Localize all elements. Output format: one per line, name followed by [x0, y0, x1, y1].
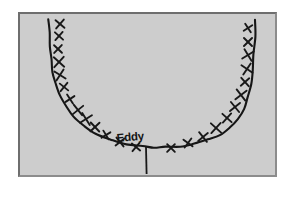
eddy-annotation: Eddy [116, 130, 146, 174]
data-point-x [54, 45, 62, 53]
eddy-label: Eddy [116, 130, 145, 144]
x-stroke-b [242, 49, 253, 60]
data-point-x [230, 102, 240, 112]
data-point-x [132, 143, 140, 151]
eddy-diagram-svg: Eddy [20, 14, 275, 175]
data-point-x [241, 63, 252, 74]
data-point-x [56, 20, 65, 29]
data-point-x [66, 95, 75, 104]
eddy-tick-line [146, 147, 147, 174]
data-point-x [242, 49, 253, 60]
data-point-x [167, 144, 175, 152]
data-point-x [211, 123, 221, 133]
data-point-x [244, 38, 252, 46]
curve-stroke [48, 19, 255, 147]
data-point-x [91, 123, 100, 132]
x-stroke-b [241, 63, 252, 74]
data-point-x [60, 83, 68, 91]
x-stroke-b [54, 69, 65, 80]
data-point-x [55, 32, 63, 40]
data-point-x [235, 89, 246, 100]
figure-root: Eddy [0, 0, 295, 200]
data-point-x [222, 113, 231, 122]
data-point-x [241, 78, 249, 86]
data-point-x [54, 69, 65, 80]
boundary-curve [48, 19, 255, 147]
plot-panel: Eddy [18, 12, 277, 177]
data-point-x [244, 24, 253, 33]
data-point-x [54, 57, 64, 67]
